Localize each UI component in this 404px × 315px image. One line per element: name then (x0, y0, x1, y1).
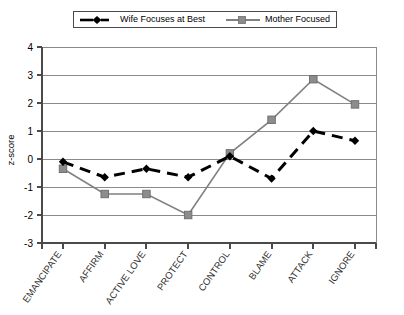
y-axis-ticks (37, 47, 42, 243)
diamond-marker-icon (309, 127, 317, 135)
square-marker-icon (310, 75, 318, 83)
x-tick-label-active-love: ACTIVE LOVE (103, 249, 148, 306)
x-tick-label-blame: BLAME (246, 249, 273, 282)
y-axis-title: z-score (5, 134, 16, 165)
diamond-marker-icon (142, 165, 150, 173)
square-marker-icon (101, 190, 109, 198)
gridlines (42, 47, 376, 243)
x-axis-ticks (42, 243, 376, 249)
y-tick-label: 0 (27, 154, 33, 165)
y-tick-label: 1 (27, 126, 33, 137)
x-tick-label-control: CONTROL (196, 249, 232, 293)
chart-series-layer (59, 75, 359, 218)
square-marker-icon (351, 101, 359, 109)
y-tick-label: 4 (27, 42, 33, 53)
x-tick-label-affirm: AFFIRM (76, 249, 105, 284)
chart-plot-area: 4 3 2 1 0 -1 -2 -3 z-score EM (0, 0, 404, 315)
y-tick-label: 3 (27, 70, 33, 81)
square-marker-icon (184, 211, 192, 219)
diamond-marker-icon (101, 173, 109, 181)
y-tick-label: -1 (24, 182, 33, 193)
y-tick-label: 2 (27, 98, 33, 109)
series-mother-focused (59, 75, 359, 218)
series-wife-focuses-at-best (59, 127, 359, 183)
x-tick-label-ignore: IGNORE (326, 249, 357, 286)
square-marker-icon (59, 165, 67, 173)
y-tick-label: -3 (24, 238, 33, 249)
y-axis-tick-labels: 4 3 2 1 0 -1 -2 -3 (24, 42, 33, 249)
diamond-marker-icon (351, 137, 359, 145)
x-tick-label-emancipate: EMANCIPATE (20, 249, 64, 305)
x-tick-label-attack: ATTACK (285, 248, 315, 284)
y-tick-label: -2 (24, 210, 33, 221)
x-axis-category-labels: EMANCIPATE AFFIRM ACTIVE LOVE PROTECT CO… (20, 248, 357, 306)
x-tick-label-protect: PROTECT (155, 249, 190, 293)
square-marker-icon (268, 116, 276, 124)
square-marker-icon (143, 190, 151, 198)
chart-figure: Wife Focuses at Best Mother Focused (0, 0, 404, 315)
series-line (63, 131, 355, 179)
